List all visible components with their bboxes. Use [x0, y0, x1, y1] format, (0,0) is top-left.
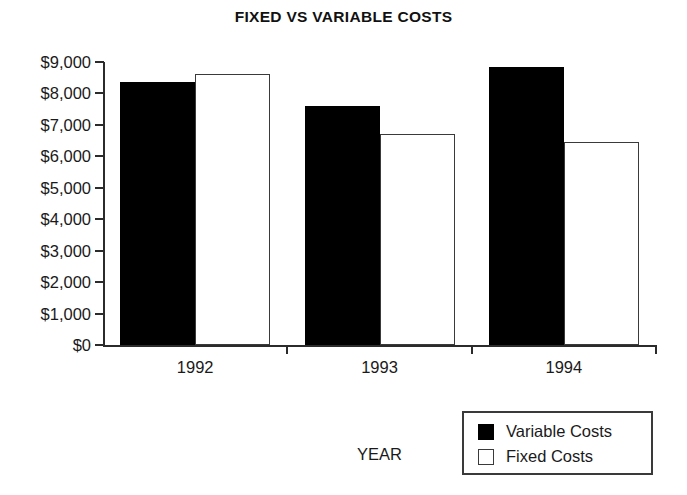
y-axis-tick — [95, 218, 104, 220]
y-axis-tick — [95, 155, 104, 157]
y-axis-tick-label: $9,000 — [41, 53, 91, 72]
x-axis-label-1992: 1992 — [177, 358, 214, 377]
y-axis-tick-label: $8,000 — [41, 84, 91, 103]
y-axis-tick — [95, 250, 104, 252]
y-axis-tick — [95, 61, 104, 63]
bar-fixed-costs-1992 — [195, 74, 270, 345]
legend-item-fixed-costs: Fixed Costs — [478, 444, 651, 469]
y-axis-line — [103, 62, 105, 346]
y-axis-tick-label: $2,000 — [41, 273, 91, 292]
x-axis-tick — [655, 345, 657, 354]
legend-swatch-fixed-costs — [478, 449, 494, 465]
chart-title: FIXED VS VARIABLE COSTS — [0, 8, 687, 26]
legend-swatch-variable-costs — [478, 424, 494, 440]
legend-item-variable-costs: Variable Costs — [478, 419, 651, 444]
legend-label-fixed-costs: Fixed Costs — [506, 447, 593, 466]
x-axis-tick — [286, 345, 288, 354]
bar-variable-costs-1994 — [489, 67, 564, 345]
y-axis-tick-label: $3,000 — [41, 241, 91, 260]
y-axis-tick-label: $0 — [73, 336, 91, 355]
y-axis-tick-label: $6,000 — [41, 147, 91, 166]
bar-fixed-costs-1994 — [564, 142, 639, 345]
x-axis-tick — [471, 345, 473, 354]
y-axis-tick-label: $4,000 — [41, 210, 91, 229]
y-axis-tick-label: $1,000 — [41, 304, 91, 323]
y-axis-tick — [95, 92, 104, 94]
legend-label-variable-costs: Variable Costs — [506, 422, 612, 441]
y-axis-tick — [95, 344, 104, 346]
y-axis-tick-label: $5,000 — [41, 178, 91, 197]
bar-chart: FIXED VS VARIABLE COSTS $0$1,000$2,000$3… — [0, 0, 687, 495]
y-axis-tick — [95, 187, 104, 189]
y-axis-tick-label: $7,000 — [41, 115, 91, 134]
x-axis-label-1993: 1993 — [361, 358, 398, 377]
chart-legend: Variable Costs Fixed Costs — [462, 411, 653, 475]
y-axis-tick — [95, 281, 104, 283]
y-axis-tick — [95, 313, 104, 315]
x-axis-line — [103, 345, 656, 347]
bar-variable-costs-1992 — [120, 82, 195, 345]
y-axis-tick — [95, 124, 104, 126]
bar-variable-costs-1993 — [305, 106, 380, 345]
x-axis-label-1994: 1994 — [545, 358, 582, 377]
plot-area: $0$1,000$2,000$3,000$4,000$5,000$6,000$7… — [103, 62, 656, 345]
bar-fixed-costs-1993 — [380, 134, 455, 345]
